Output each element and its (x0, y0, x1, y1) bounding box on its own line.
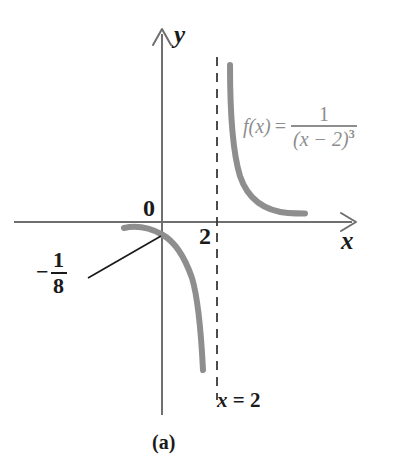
formula-fraction: 1 (x − 2)3 (291, 104, 357, 148)
leader-line-neg-one-eighth (88, 236, 161, 278)
formula-function-name: f(x) (243, 116, 271, 136)
annotation-minimum-value: − 1 8 (36, 249, 67, 297)
fraction-numerator: 1 (51, 249, 66, 272)
figure-container: y x 0 2 − 1 8 f(x) = 1 (x − 2)3 x = 2 (a… (0, 0, 395, 467)
formula-numerator: 1 (317, 104, 331, 125)
x-tick-label-2: 2 (199, 224, 211, 248)
minus-sign: − (36, 261, 49, 283)
origin-label: 0 (143, 196, 155, 220)
y-axis-label: y (174, 22, 185, 47)
formula-denominator-base: (x − 2) (293, 127, 349, 149)
fraction-one-eighth: 1 8 (51, 249, 67, 297)
fraction-denominator: 8 (51, 274, 66, 297)
function-formula: f(x) = 1 (x − 2)3 (243, 104, 357, 148)
formula-denominator: (x − 2)3 (291, 127, 357, 149)
curve-left-branch (124, 227, 203, 370)
asymptote-caption-variable: x (217, 388, 228, 412)
figure-caption: (a) (152, 432, 175, 452)
x-axis-label: x (341, 228, 354, 253)
asymptote-caption: x = 2 (217, 390, 260, 411)
formula-equals-sign: = (275, 116, 286, 136)
plot-canvas (0, 0, 395, 467)
formula-denominator-exponent: 3 (349, 127, 355, 141)
asymptote-caption-rest: = 2 (228, 388, 261, 412)
